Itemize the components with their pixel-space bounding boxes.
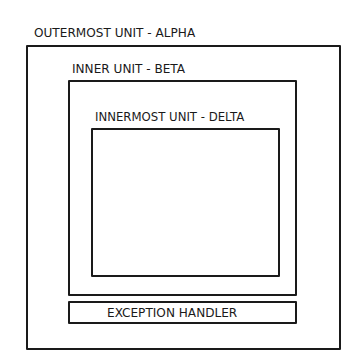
- exception-handler-label: EXCEPTION HANDLER: [107, 306, 237, 319]
- innermost-unit-label: INNERMOST UNIT - DELTA: [95, 110, 244, 123]
- inner-unit-label: INNER UNIT - BETA: [72, 62, 185, 75]
- innermost-unit-box: [91, 128, 280, 277]
- outer-unit-label: OUTERMOST UNIT - ALPHA: [34, 26, 195, 39]
